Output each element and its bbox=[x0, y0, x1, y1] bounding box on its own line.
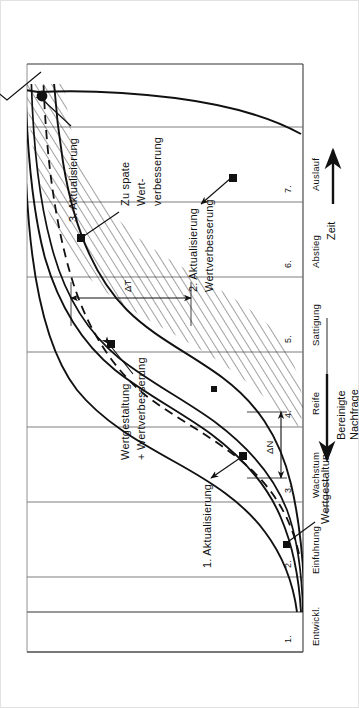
figure-page: 1. 2. 3. 4. 5. 6. 7. Entwickl. Einfuhrun… bbox=[0, 0, 359, 708]
marker-mid-low bbox=[211, 386, 217, 392]
axis-demand-caption: Bereinigte Nachfrage bbox=[335, 389, 359, 440]
phase-name-2: Einfuhrung bbox=[311, 526, 322, 574]
phase-name-4: Reife bbox=[311, 392, 322, 415]
curve-aktualisierung-trunk bbox=[37, 91, 301, 134]
axis-time-caption: Zeit bbox=[325, 222, 338, 240]
marker-2-aktualisierung bbox=[229, 174, 237, 182]
phase-number-5: 5. bbox=[283, 335, 293, 343]
phase-name-7: Auslauf bbox=[311, 158, 322, 191]
phase-name-5: Sattigung bbox=[311, 304, 322, 346]
phase-number-4: 4. bbox=[283, 410, 293, 418]
label-wg-plus-wv-line1: Wertgestaltung bbox=[119, 383, 131, 460]
plot-svg bbox=[15, 34, 345, 674]
phase-number-7: 7. bbox=[283, 185, 293, 193]
phase-number-3: 3. bbox=[283, 485, 293, 493]
phase-name-6: Abstieg bbox=[311, 235, 322, 268]
label-1-aktualisierung: 1. Aktualisierung bbox=[201, 484, 213, 568]
phase-number-2: 2. bbox=[283, 560, 293, 568]
label-zu-spaete-l1: Zu spate bbox=[119, 162, 131, 206]
label-delta-t: ΔT bbox=[123, 279, 134, 292]
label-zu-spaete-l3: verbesserung bbox=[151, 137, 163, 206]
label-2-aktualisierung-sub: Wertverbesserung bbox=[203, 199, 215, 292]
plot-stage: 1. 2. 3. 4. 5. 6. 7. Entwickl. Einfuhrun… bbox=[15, 34, 345, 674]
label-wertgestaltung: Wertgestaltung bbox=[319, 447, 331, 524]
phase-name-1: Entwickl. bbox=[311, 607, 322, 646]
label-delta-n: ΔN bbox=[265, 440, 276, 454]
phase-number-1: 1. bbox=[283, 635, 293, 643]
label-2-aktualisierung: 2. Aktualisierung bbox=[187, 208, 199, 292]
phase-number-6: 6. bbox=[283, 260, 293, 268]
marker-zu-spaete-wv bbox=[77, 234, 85, 242]
label-wg-plus-wv-line2: + Wertverbesserung bbox=[135, 357, 147, 460]
leader-1-aktualisierung bbox=[211, 456, 243, 478]
marker-wg-plus-wv bbox=[107, 340, 115, 348]
label-zu-spaete-l2: Wert- bbox=[135, 178, 147, 206]
label-3-aktualisierung: 3. Aktualisierung bbox=[67, 138, 79, 222]
